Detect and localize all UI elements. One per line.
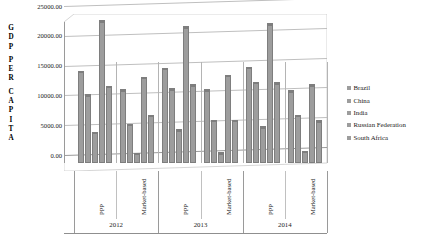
legend-label: China [354,97,370,105]
bar [141,78,147,163]
bar-top-face [85,94,91,96]
legend-swatch-icon [347,86,351,90]
category-separator [201,62,202,163]
legend-item[interactable]: India [347,107,435,119]
bar-top-face [295,115,301,117]
bar-top-face [232,120,238,122]
bar-top-face [309,84,315,86]
bar-top-face [148,115,154,117]
bar [162,69,168,163]
bar [274,84,280,163]
bar [92,133,98,163]
bar-top-face [162,68,168,70]
bar [253,83,259,163]
x-axis-category-label: Market-based [140,179,147,215]
bar-top-face [141,77,147,79]
legend-item[interactable]: Russian Federation [347,119,435,131]
legend-item[interactable]: China [347,94,435,106]
bar-top-face [288,90,294,92]
x-axis-category-label: Market-based [225,179,232,215]
x-axis-category-label: PPP [182,204,189,215]
bar-top-face [169,88,175,90]
bar-top-face [78,71,84,73]
y-axis-tick-label: 25000.00 [16,3,62,10]
x-axis-tick [285,171,286,219]
legend-label: South Africa [354,134,389,142]
x-axis-tick [201,171,202,219]
bar [85,96,91,163]
chart-legend: BrazilChinaIndiaRussian FederationSouth … [347,82,435,144]
bar [148,116,154,163]
y-axis-tick-labels: 0.005000.0010000.0015000.0020000.0025000… [14,0,62,241]
x-axis-group-tick [243,171,244,233]
bar [183,28,189,163]
x-axis-group-label: 2012 [96,221,136,228]
y-axis-line [64,22,65,163]
bar [316,122,322,163]
plot-area [64,14,327,171]
x-axis-group-label: 2013 [181,221,221,228]
y-axis-tick-label: 10000.00 [16,92,62,99]
legend-label: India [354,109,368,117]
legend-label: Brazil [354,84,371,92]
bar-top-face [99,20,105,22]
bar [260,128,266,163]
bar-top-face [253,82,259,84]
bar-top-face [127,124,133,126]
y-axis-tick-label: 15000.00 [16,62,62,69]
y-axis-tick-label: 0.00 [16,152,62,159]
x-axis-group-tick [327,171,328,233]
bar [106,87,112,163]
x-axis-group-tick [158,171,159,233]
bar-top-face [260,126,266,128]
category-separator [116,62,117,163]
legend-item[interactable]: Brazil [347,82,435,94]
bar [78,72,84,163]
bar [204,91,210,163]
bar [190,86,196,163]
category-separator [285,62,286,163]
bar [225,76,231,163]
legend-swatch-icon [347,111,351,115]
bar-top-face [176,129,182,131]
x-axis-category-label: PPP [98,204,105,215]
bar [302,152,308,163]
bar-top-face [204,89,210,91]
bar [246,68,252,163]
bar-top-face [267,23,273,25]
legend-label: Russian Federation [354,121,406,129]
bar [176,131,182,163]
bar [120,91,126,163]
bar-top-face [218,152,224,154]
x-axis-labels: PPPMarket-basedPPPMarket-basedPPPMarket-… [64,171,327,241]
y-axis-tick-label: 20000.00 [16,32,62,39]
bar-top-face [134,153,140,155]
bar [309,86,315,163]
bar-top-face [211,120,217,122]
legend-swatch-icon [347,136,351,140]
bar-top-face [106,86,112,88]
gridline [64,0,327,7]
bar-top-face [190,84,196,86]
bar [288,92,294,163]
bar-top-face [183,26,189,28]
bar-top-face [302,151,308,153]
bar-top-face [120,89,126,91]
bar [127,125,133,163]
x-axis-tick [116,171,117,219]
legend-swatch-icon [347,123,351,127]
bar [295,116,301,163]
bar [134,154,140,163]
bar [218,154,224,163]
gdp-per-capita-bar-chart: GDPPERCAPITA 0.005000.0010000.0015000.00… [0,0,436,241]
bar-top-face [92,132,98,134]
bar-top-face [274,82,280,84]
category-separator [243,62,244,163]
legend-item[interactable]: South Africa [347,132,435,144]
x-axis-category-label: PPP [267,204,274,215]
x-axis-group-label: 2014 [265,221,305,228]
x-axis-group-tick [74,171,75,233]
bar [232,121,238,163]
bar-top-face [225,75,231,77]
bar-top-face [246,67,252,69]
